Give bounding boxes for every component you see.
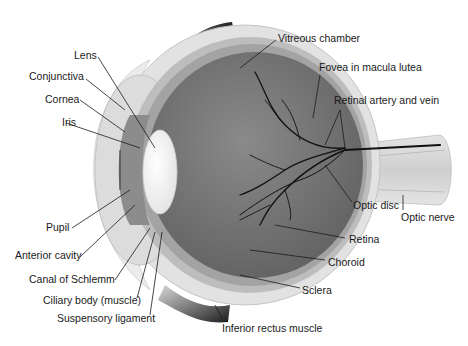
label-sclera: Sclera <box>302 284 332 296</box>
label-optic-nerve: Optic nerve <box>401 211 455 223</box>
label-suspensory-ligament: Suspensory ligament <box>57 312 155 324</box>
label-inferior-rectus: Inferior rectus muscle <box>222 322 322 334</box>
label-retina: Retina <box>349 233 379 245</box>
label-pupil: Pupil <box>46 221 69 233</box>
label-canal-of-schlemm: Canal of Schlemm <box>29 273 115 285</box>
lens-shape <box>143 130 177 214</box>
label-iris: Iris <box>62 116 76 128</box>
label-retinal-artery-vein: Retinal artery and vein <box>334 94 439 106</box>
label-fovea: Fovea in macula lutea <box>319 61 422 73</box>
eye-diagram: Lens Conjunctiva Cornea Iris Pupil Anter… <box>0 0 468 346</box>
label-cornea: Cornea <box>45 93 79 105</box>
label-lens: Lens <box>74 49 97 61</box>
label-vitreous-chamber: Vitreous chamber <box>278 32 360 44</box>
label-conjunctiva: Conjunctiva <box>29 70 84 82</box>
vitreous-chamber-shape <box>147 52 363 278</box>
label-anterior-cavity: Anterior cavity <box>15 249 82 261</box>
label-ciliary-body: Ciliary body (muscle) <box>43 294 141 306</box>
label-optic-disc: Optic disc <box>353 199 399 211</box>
label-choroid: Choroid <box>328 256 365 268</box>
